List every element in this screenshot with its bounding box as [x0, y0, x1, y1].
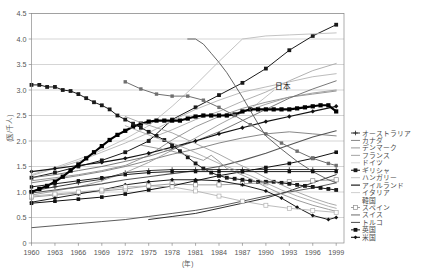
data-point-marker — [287, 206, 291, 210]
data-point-marker — [264, 170, 267, 173]
data-point-marker — [287, 107, 291, 111]
legend-label: ギリシャ — [362, 167, 390, 174]
legend-item-トルコ[interactable]: トルコ — [351, 219, 383, 226]
data-point-marker — [334, 164, 337, 167]
y-tick-label: 0.5 — [17, 213, 27, 222]
legend-item-オーストラリア[interactable]: オーストラリア — [351, 130, 411, 137]
data-point-marker — [240, 199, 244, 203]
data-point-marker — [225, 113, 229, 117]
data-point-marker — [100, 195, 104, 199]
data-point-marker — [108, 138, 112, 142]
data-point-marker — [84, 96, 88, 100]
data-point-marker — [334, 170, 337, 173]
data-point-marker — [326, 103, 330, 107]
legend-item-ギリシャ[interactable]: ギリシャ — [351, 167, 390, 174]
data-point-marker — [115, 133, 119, 137]
data-point-marker — [311, 34, 315, 38]
legend-label: スペイン — [362, 204, 390, 211]
data-point-marker — [209, 113, 213, 117]
data-point-marker — [123, 192, 127, 196]
data-point-marker — [287, 48, 291, 52]
data-point-marker — [256, 107, 260, 111]
y-tick-label: 0 — [23, 239, 27, 248]
data-point-marker — [69, 89, 73, 93]
data-point-marker — [100, 188, 104, 192]
x-tick-label: 1966 — [70, 248, 86, 257]
y-axis: 00.51.01.52.02.53.03.54.04.5 — [17, 9, 32, 248]
data-point-marker — [287, 182, 291, 186]
legend-item-ドイツ[interactable]: ドイツ — [351, 159, 383, 166]
data-point-marker — [279, 107, 283, 111]
data-point-marker — [84, 156, 88, 160]
data-point-marker — [123, 185, 127, 189]
x-tick-label: 1981 — [188, 248, 204, 257]
legend-item-スイス[interactable]: スイス — [351, 211, 383, 218]
data-point-marker — [194, 170, 197, 173]
data-point-marker — [123, 118, 127, 122]
data-point-marker — [327, 162, 330, 165]
data-point-marker — [139, 126, 143, 130]
data-point-marker — [193, 114, 197, 118]
data-point-marker — [139, 87, 142, 90]
data-point-marker — [53, 85, 57, 89]
x-tick-label: 1978 — [164, 248, 180, 257]
data-point-marker — [217, 174, 221, 178]
data-point-marker — [170, 170, 173, 173]
data-point-marker — [186, 94, 189, 97]
annotation-japan: 日本 — [275, 81, 291, 91]
data-point-marker — [264, 67, 268, 71]
y-axis-title: (医/千人) — [5, 115, 14, 142]
legend-item-米国[interactable]: 米国 — [351, 233, 376, 242]
data-point-marker — [100, 103, 104, 107]
data-point-marker — [303, 184, 307, 188]
data-point-marker — [225, 176, 229, 180]
y-tick-label: 4.5 — [17, 9, 27, 18]
y-tick-label: 2.0 — [17, 137, 27, 146]
y-tick-label: 1.5 — [17, 162, 27, 171]
y-tick-label: 2.5 — [17, 111, 27, 120]
legend-item-イタリア[interactable]: イタリア — [351, 188, 390, 196]
data-point-marker — [77, 179, 80, 182]
legend-label: 米国 — [362, 233, 376, 242]
data-point-marker — [170, 94, 173, 97]
x-tick-label: 1999 — [328, 248, 344, 257]
data-point-marker — [124, 80, 127, 83]
x-tick-label: 1984 — [211, 248, 227, 257]
data-point-marker — [241, 178, 245, 182]
data-point-marker — [334, 109, 338, 113]
legend-swatch-marker — [354, 235, 358, 239]
data-point-marker — [295, 183, 299, 187]
data-point-marker — [76, 92, 80, 96]
data-point-marker — [217, 113, 221, 117]
data-point-marker — [162, 119, 166, 123]
legend-item-アイルランド[interactable]: アイルランド — [351, 182, 404, 189]
data-point-marker — [37, 83, 41, 87]
data-point-marker — [194, 162, 198, 166]
legend-label: トルコ — [362, 219, 383, 226]
data-point-marker — [178, 119, 182, 123]
legend-item-ハンガリー[interactable]: ハンガリー — [351, 173, 397, 181]
data-point-marker — [217, 183, 221, 187]
data-point-marker — [264, 107, 268, 111]
legend-label: ハンガリー — [362, 173, 397, 181]
legend-item-スペイン[interactable]: スペイン — [351, 204, 390, 211]
data-point-marker — [124, 173, 127, 176]
data-point-marker — [201, 113, 205, 117]
data-point-marker — [123, 129, 127, 133]
data-point-marker — [77, 197, 81, 201]
x-axis: 1960196319661969197219751978198119841987… — [24, 243, 345, 257]
legend: オーストラリアカナダデンマークフランスドイツギリシャハンガリーアイルランドイタリ… — [351, 130, 411, 242]
data-point-marker — [334, 23, 338, 27]
data-point-marker — [116, 114, 120, 118]
legend-item-フランス[interactable]: フランス — [351, 152, 390, 159]
legend-label: アイルランド — [362, 182, 404, 189]
data-point-marker — [240, 109, 244, 113]
data-point-marker — [147, 184, 151, 188]
data-point-marker — [311, 179, 315, 183]
data-point-marker — [334, 210, 338, 214]
data-point-marker — [319, 186, 323, 190]
data-point-marker — [147, 120, 151, 124]
data-point-marker — [217, 106, 220, 109]
data-point-marker — [311, 170, 314, 173]
data-point-marker — [61, 88, 65, 92]
